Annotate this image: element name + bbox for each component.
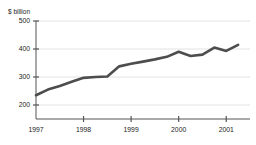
x-tick-label: 2000 [162, 126, 196, 133]
y-tick-label: 300 [8, 73, 30, 80]
x-tick-label: 1999 [114, 126, 148, 133]
x-tick-label: 1997 [19, 126, 53, 133]
data-series-line [36, 45, 238, 95]
line-chart-figure: $ billion 200300400500 19971998199920002… [0, 0, 256, 145]
gridlines [36, 21, 250, 105]
y-tick-label: 400 [8, 45, 30, 52]
x-tick-label: 2001 [209, 126, 243, 133]
y-tick-label: 500 [8, 17, 30, 24]
plot-area [0, 0, 256, 145]
chart-svg [0, 0, 256, 145]
y-tick-label: 200 [8, 101, 30, 108]
x-tick-label: 1998 [67, 126, 101, 133]
